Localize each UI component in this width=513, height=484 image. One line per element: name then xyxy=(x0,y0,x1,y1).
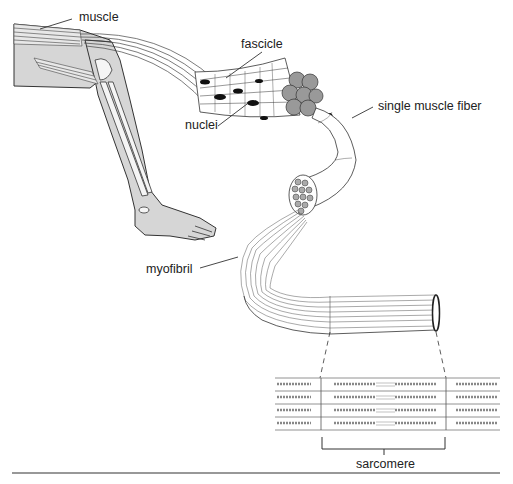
label-single-muscle-fiber: single muscle fiber xyxy=(378,100,482,113)
leg-illustration xyxy=(14,24,216,240)
label-myofibril: myofibril xyxy=(146,263,193,276)
zoom-lines xyxy=(320,332,446,378)
label-muscle: muscle xyxy=(79,11,119,24)
label-nuclei: nuclei xyxy=(185,119,218,132)
muscle-diagram xyxy=(0,0,513,484)
label-fascicle: fascicle xyxy=(241,38,283,51)
label-sarcomere: sarcomere xyxy=(356,458,415,471)
myofibril-bundle xyxy=(241,210,436,334)
sarcomere-bracket xyxy=(322,437,445,455)
myofibril-end xyxy=(433,295,440,331)
fiber-cross-section xyxy=(289,175,317,215)
